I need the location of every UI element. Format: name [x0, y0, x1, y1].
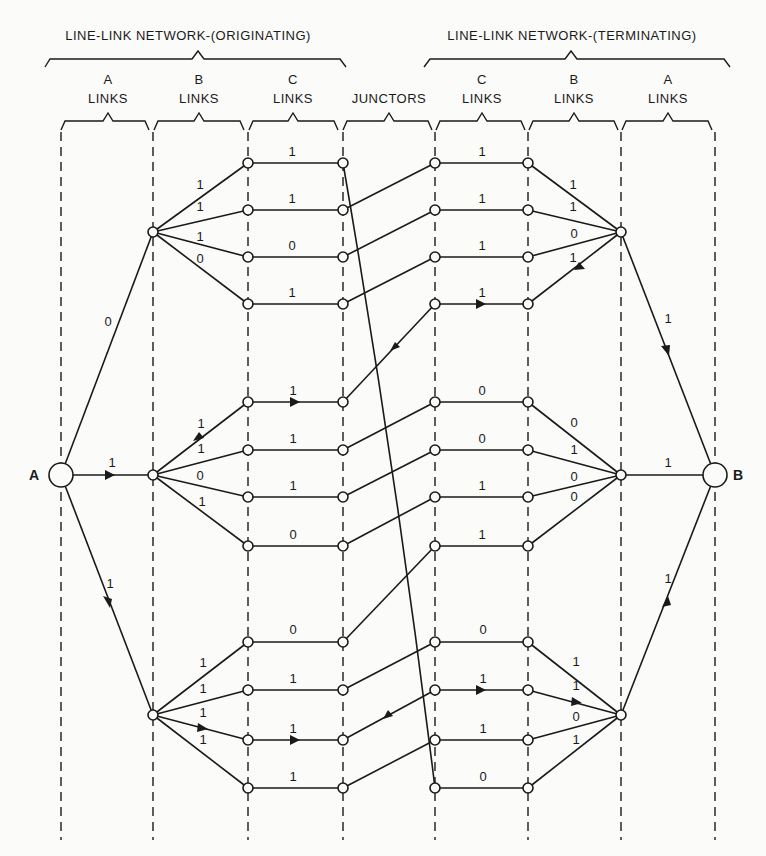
svg-text:1: 1	[199, 732, 206, 747]
originating-brace	[45, 51, 346, 67]
svg-text:1: 1	[198, 494, 205, 509]
svg-text:1: 1	[478, 191, 485, 206]
svg-text:1: 1	[196, 177, 203, 192]
svg-text:0: 0	[479, 769, 486, 784]
svg-text:0: 0	[289, 527, 296, 542]
svg-text:1: 1	[196, 229, 203, 244]
svg-text:1: 1	[289, 671, 296, 686]
svg-text:0: 0	[288, 238, 295, 253]
svg-text:0: 0	[572, 709, 579, 724]
terminal-a-label: A	[29, 467, 39, 483]
svg-text:1: 1	[478, 238, 485, 253]
svg-text:1: 1	[664, 311, 671, 326]
svg-text:0: 0	[196, 251, 203, 266]
svg-text:1: 1	[199, 655, 206, 670]
svg-text:0: 0	[478, 431, 485, 446]
svg-text:1: 1	[664, 455, 671, 470]
svg-text:0: 0	[570, 489, 577, 504]
terminal-b-label: B	[733, 467, 743, 483]
svg-text:1: 1	[199, 705, 206, 720]
column-labels: A LINKS B LINKS C LINKS JUNCTORS C LINKS…	[88, 72, 688, 106]
svg-text:1: 1	[572, 732, 579, 747]
col-b-left-label: LINKS	[179, 91, 219, 106]
col-a-left-letter: A	[103, 72, 112, 87]
col-b-right-label: LINKS	[554, 91, 594, 106]
originating-network-title: LINE-LINK NETWORK-(ORIGINATING)	[65, 28, 311, 43]
svg-text:0: 0	[570, 226, 577, 241]
svg-text:1: 1	[478, 527, 485, 542]
col-a-left-label: LINKS	[88, 91, 128, 106]
svg-text:1: 1	[108, 455, 115, 470]
col-c-right-letter: C	[477, 72, 487, 87]
svg-text:0: 0	[479, 622, 486, 637]
col-c-right-label: LINKS	[462, 91, 502, 106]
svg-text:1: 1	[570, 442, 577, 457]
terminating-network-title: LINE-LINK NETWORK-(TERMINATING)	[447, 28, 696, 43]
svg-text:1: 1	[289, 383, 296, 398]
svg-text:1: 1	[664, 571, 671, 586]
svg-text:1: 1	[479, 721, 486, 736]
terminal-a-node	[49, 463, 73, 487]
svg-text:1: 1	[572, 654, 579, 669]
svg-text:1: 1	[572, 678, 579, 693]
col-a-right-letter: A	[663, 72, 672, 87]
svg-text:1: 1	[196, 199, 203, 214]
svg-text:1: 1	[106, 576, 113, 591]
svg-text:0: 0	[196, 468, 203, 483]
svg-text:0: 0	[570, 469, 577, 484]
col-junctors-label: JUNCTORS	[352, 91, 427, 106]
terminating-brace	[424, 51, 730, 67]
col-b-right-letter: B	[569, 72, 578, 87]
col-c-left-label: LINKS	[273, 91, 313, 106]
svg-text:1: 1	[197, 441, 204, 456]
svg-text:1: 1	[569, 177, 576, 192]
col-c-left-letter: C	[288, 72, 298, 87]
svg-text:1: 1	[478, 144, 485, 159]
terminal-b-node	[703, 463, 727, 487]
svg-text:1: 1	[289, 721, 296, 736]
svg-text:1: 1	[479, 671, 486, 686]
svg-text:1: 1	[288, 191, 295, 206]
svg-text:1: 1	[288, 285, 295, 300]
svg-text:1: 1	[289, 769, 296, 784]
svg-text:1: 1	[288, 144, 295, 159]
svg-text:0: 0	[570, 415, 577, 430]
switching-network-diagram: LINE-LINK NETWORK-(ORIGINATING) LINE-LIN…	[0, 0, 766, 856]
column-dividers	[61, 132, 715, 840]
svg-text:0: 0	[289, 622, 296, 637]
svg-text:1: 1	[197, 416, 204, 431]
svg-text:0: 0	[478, 383, 485, 398]
col-b-left-letter: B	[194, 72, 203, 87]
svg-text:1: 1	[478, 478, 485, 493]
svg-text:1: 1	[199, 681, 206, 696]
svg-text:1: 1	[569, 199, 576, 214]
svg-text:1: 1	[569, 250, 576, 265]
column-braces	[61, 113, 712, 130]
svg-text:0: 0	[104, 314, 111, 329]
svg-text:1: 1	[289, 431, 296, 446]
svg-text:1: 1	[289, 478, 296, 493]
path-arrows	[103, 262, 671, 745]
col-a-right-label: LINKS	[648, 91, 688, 106]
svg-text:1: 1	[478, 285, 485, 300]
